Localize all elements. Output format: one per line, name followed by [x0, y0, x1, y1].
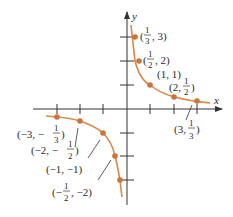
svg-text:): ) [191, 81, 195, 94]
svg-text:, 2): , 2) [155, 54, 170, 67]
svg-text:2: 2 [148, 60, 153, 70]
svg-text:1: 1 [145, 25, 150, 35]
svg-text:1: 1 [54, 123, 59, 133]
graph-canvas: x y ( 1 3 , 3) ( 1 2 , 2) (1, 1) [0, 0, 233, 217]
svg-text:(−2, −: (−2, − [31, 144, 58, 157]
svg-text:1: 1 [148, 49, 153, 59]
x-axis-label: x [213, 94, 219, 106]
label-p2: ( 1 2 , 2) [143, 49, 170, 70]
svg-text:1: 1 [184, 76, 189, 86]
svg-text:(: ( [140, 30, 144, 43]
svg-text:(2,: (2, [169, 81, 181, 94]
label-p3: (1, 1) [157, 68, 181, 81]
label-p8: (−1, −1) [46, 163, 83, 176]
y-axis-label: y [131, 10, 137, 22]
svg-text:1: 1 [68, 139, 73, 149]
svg-text:): ) [196, 123, 200, 136]
label-p5: (3, 1 3 ) [174, 118, 200, 141]
svg-text:2: 2 [68, 151, 73, 161]
svg-text:): ) [75, 144, 79, 157]
svg-text:(−3, −: (−3, − [17, 128, 44, 141]
svg-text:1: 1 [64, 181, 69, 191]
svg-text:1: 1 [189, 118, 194, 128]
svg-text:, 3): , 3) [152, 30, 167, 43]
label-p6: (−3, − 1 3 ) [17, 123, 65, 145]
svg-text:2: 2 [184, 87, 189, 97]
label-p1: ( 1 3 , 3) [140, 25, 167, 46]
svg-text:2: 2 [64, 193, 69, 203]
svg-text:, −2): , −2) [71, 186, 92, 199]
svg-text:3: 3 [189, 131, 194, 141]
leader-lines [75, 105, 192, 180]
label-p9: (− 1 2 , −2) [52, 181, 92, 203]
svg-text:): ) [61, 128, 65, 141]
svg-text:(3,: (3, [174, 123, 186, 136]
svg-text:(: ( [143, 54, 147, 67]
svg-text:3: 3 [145, 36, 150, 46]
svg-text:(−: (− [52, 186, 62, 199]
